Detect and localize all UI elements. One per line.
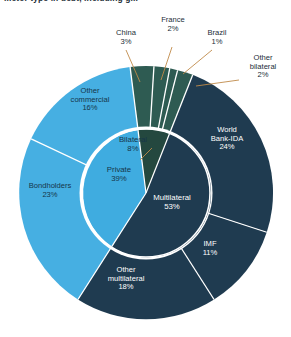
leader-line-brazil bbox=[183, 50, 212, 74]
inner-ring bbox=[80, 127, 213, 260]
nested-donut-chart bbox=[0, 0, 291, 337]
chart-figure: ...ctor type in debt, including g... bbox=[0, 0, 291, 337]
